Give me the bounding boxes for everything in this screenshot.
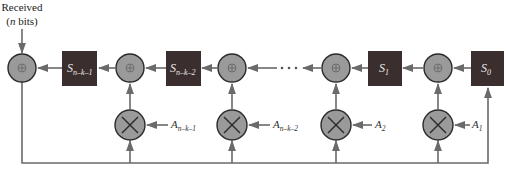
- multiplier-2: [217, 110, 247, 140]
- xor-adder-3: [322, 54, 350, 82]
- feedback-line: [22, 82, 488, 163]
- received-bits-label: (n bits): [6, 15, 38, 28]
- syndrome-lfsr-diagram: Received (n bits): [0, 0, 510, 171]
- register-s-n-k-1: Sn–k–1: [62, 51, 97, 86]
- multiplier-1: [115, 110, 145, 140]
- register-s-n-k-2: Sn–k–2: [166, 51, 201, 86]
- xor-adder-4: [424, 54, 452, 82]
- xor-adder-1: [116, 54, 144, 82]
- received-label: Received: [2, 1, 43, 13]
- ellipsis-dot: [295, 67, 298, 70]
- xor-adder-2: [218, 54, 246, 82]
- coef-a-n-k-2: An–k–2: [272, 118, 298, 133]
- multiplier-4: [423, 110, 453, 140]
- xor-adder-input: [8, 54, 36, 82]
- multiplier-3: [321, 110, 351, 140]
- ellipsis: [281, 67, 298, 70]
- ellipsis-dot: [281, 67, 284, 70]
- register-s-0: S0: [471, 51, 504, 86]
- coef-a-1: A1: [471, 118, 482, 133]
- register-s-1: S1: [368, 51, 402, 86]
- ellipsis-dot: [288, 67, 291, 70]
- coef-a-2: A2: [374, 118, 386, 133]
- coef-a-n-k-1: An–k–1: [170, 118, 196, 133]
